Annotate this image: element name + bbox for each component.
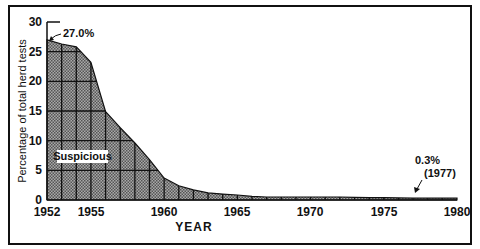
- annotation-end-year: (1977): [424, 167, 456, 179]
- y-axis-title: Percentage of total herd tests: [16, 39, 28, 183]
- x-tick-1952: 1952: [34, 205, 61, 219]
- area-series-suspicious: [47, 22, 457, 200]
- y-tick-20: 20: [29, 74, 43, 88]
- y-tick-5: 5: [35, 163, 42, 177]
- y-tick-25: 25: [29, 45, 43, 59]
- annotation-start-value: 27.0%: [63, 27, 94, 39]
- x-tick-1980: 1980: [444, 205, 471, 219]
- y-tick-10: 10: [29, 134, 43, 148]
- y-tick-15: 15: [29, 104, 43, 118]
- area-label-suspicious: Suspicious: [53, 150, 112, 162]
- arrow-icon: [49, 34, 61, 41]
- x-axis-title: YEAR: [175, 220, 212, 234]
- chart-svg: 30 25 20 15 10 5 0 1952 1955 1960 1965 1…: [0, 0, 480, 249]
- arrow-icon: [414, 180, 422, 193]
- annotation-end-value: 0.3%: [415, 154, 440, 166]
- x-tick-1970: 1970: [297, 205, 324, 219]
- x-tick-1975: 1975: [371, 205, 398, 219]
- x-tick-1955: 1955: [78, 205, 105, 219]
- x-tick-1960: 1960: [151, 205, 178, 219]
- y-tick-labels: 30 25 20 15 10 5 0: [29, 15, 43, 207]
- y-tick-30: 30: [29, 15, 43, 29]
- x-tick-1965: 1965: [224, 205, 251, 219]
- x-tick-labels: 1952 1955 1960 1965 1970 1975 1980: [34, 205, 471, 219]
